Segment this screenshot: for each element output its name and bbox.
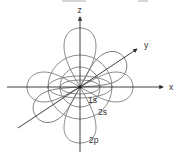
y-axis-label: y: [144, 40, 149, 50]
label-1s: 1s: [88, 95, 97, 105]
x-axis-label: x: [169, 82, 174, 92]
cropped-text-artifact-left: [62, 0, 86, 2]
z-axis-label: z: [78, 5, 82, 15]
cropped-text-artifact-right: [138, 0, 148, 2]
label-2p: 2p: [89, 135, 99, 145]
y-axis: [18, 49, 137, 128]
orbital-diagram: x y z 1s 2s 2p: [0, 0, 179, 156]
origin-point: [78, 85, 81, 88]
label-2s: 2s: [98, 107, 107, 117]
